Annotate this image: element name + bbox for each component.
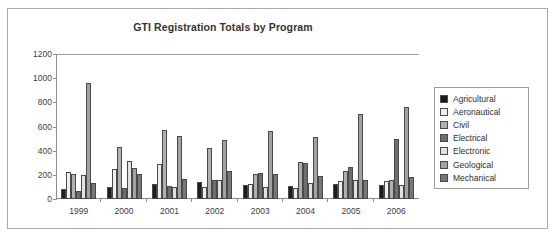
y-axis-tick-label: 400 bbox=[18, 146, 52, 156]
legend-item-label: Aeronautical bbox=[453, 107, 500, 117]
bar-group: 2002 bbox=[192, 54, 237, 199]
legend-item: Aeronautical bbox=[440, 105, 523, 118]
legend-swatch-icon bbox=[440, 161, 448, 169]
legend-item: Electronic bbox=[440, 145, 523, 158]
y-axis-tick-label: 0 bbox=[18, 194, 52, 204]
legend-swatch-icon bbox=[440, 108, 448, 116]
y-axis-tick-label: 1000 bbox=[18, 73, 52, 83]
x-axis-tick-label: 2002 bbox=[192, 206, 237, 216]
legend-swatch-icon bbox=[440, 134, 448, 142]
x-axis-tick-label: 2004 bbox=[283, 206, 328, 216]
legend-item-label: Electrical bbox=[453, 133, 487, 143]
x-axis-tick-label: 2001 bbox=[147, 206, 192, 216]
bar-group: 1999 bbox=[56, 54, 101, 199]
bar bbox=[318, 176, 323, 199]
bar bbox=[273, 174, 278, 199]
y-axis-tick-label: 800 bbox=[18, 97, 52, 107]
legend-item-label: Civil bbox=[453, 120, 469, 130]
x-axis-tick-label: 2000 bbox=[101, 206, 146, 216]
bar-group: 2006 bbox=[374, 54, 419, 199]
x-axis-tick-label: 2005 bbox=[328, 206, 373, 216]
legend-item: Geological bbox=[440, 158, 523, 171]
bar-group: 2004 bbox=[283, 54, 328, 199]
legend-item-label: Mechanical bbox=[453, 173, 496, 183]
bar-group: 2003 bbox=[238, 54, 283, 199]
legend-swatch-icon bbox=[440, 121, 448, 129]
bar bbox=[409, 177, 414, 199]
bar-group: 2000 bbox=[101, 54, 146, 199]
bar bbox=[227, 171, 232, 199]
y-axis-tick-mark bbox=[53, 199, 57, 200]
bar bbox=[137, 174, 142, 199]
chart-legend: AgriculturalAeronauticalCivilElectricalE… bbox=[434, 87, 529, 189]
chart-frame: GTI Registration Totals by Program 02004… bbox=[7, 8, 548, 229]
x-axis-tick-label: 2003 bbox=[238, 206, 283, 216]
x-axis-tick-label: 2006 bbox=[374, 206, 419, 216]
chart-screenshot: GTI Registration Totals by Program 02004… bbox=[0, 0, 556, 237]
legend-item: Mechanical bbox=[440, 171, 523, 184]
bar bbox=[182, 179, 187, 199]
legend-swatch-icon bbox=[440, 174, 448, 182]
legend-swatch-icon bbox=[440, 147, 448, 155]
legend-item: Electrical bbox=[440, 132, 523, 145]
legend-swatch-icon bbox=[440, 95, 448, 103]
chart-title: GTI Registration Totals by Program bbox=[8, 21, 438, 33]
bar-groups: 19992000200120022003200420052006 bbox=[56, 54, 419, 199]
y-axis-tick-label: 1200 bbox=[18, 49, 52, 59]
legend-item-label: Electronic bbox=[453, 146, 490, 156]
bar bbox=[91, 183, 96, 199]
bar-group: 2001 bbox=[147, 54, 192, 199]
plot-area: 020040060080010001200 199920002001200220… bbox=[56, 54, 419, 199]
legend-item-label: Agricultural bbox=[453, 94, 496, 104]
x-axis-tick-label: 1999 bbox=[56, 206, 101, 216]
y-axis-tick-label: 600 bbox=[18, 122, 52, 132]
bar-group: 2005 bbox=[328, 54, 373, 199]
bar bbox=[86, 83, 91, 199]
legend-item: Agricultural bbox=[440, 92, 523, 105]
bar bbox=[363, 180, 368, 199]
legend-item: Civil bbox=[440, 118, 523, 131]
y-axis-tick-label: 200 bbox=[18, 170, 52, 180]
legend-item-label: Geological bbox=[453, 160, 493, 170]
